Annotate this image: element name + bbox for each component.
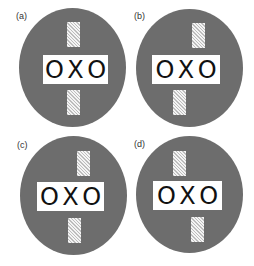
bottom-hatched-stripe [173, 90, 186, 115]
panel-label: (b) [134, 11, 145, 21]
panel-label: (c) [17, 140, 28, 150]
bottom-hatched-stripe [191, 217, 204, 242]
text-plate: OXO [152, 55, 220, 84]
panel-label: (d) [134, 139, 145, 149]
plate-text: OXO [157, 184, 223, 208]
text-plate: OXO [153, 181, 222, 210]
top-hatched-stripe [77, 151, 90, 176]
top-hatched-stripe [173, 151, 186, 176]
plate-text: OXO [40, 185, 106, 209]
top-hatched-stripe [192, 23, 205, 48]
text-plate: OXO [37, 182, 104, 211]
plate-text: OXO [155, 58, 221, 82]
bottom-hatched-stripe [68, 218, 81, 243]
panel-d: (d) OXO [0, 0, 127, 133]
